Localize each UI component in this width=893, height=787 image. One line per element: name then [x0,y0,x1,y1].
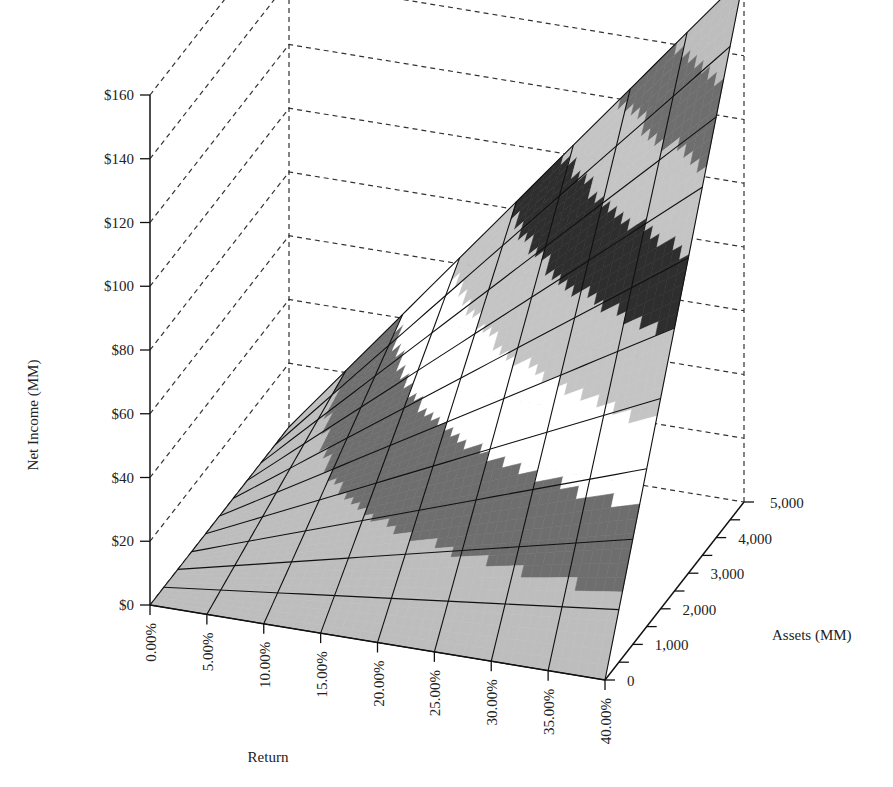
y-tick-label: 4,000 [738,531,772,547]
net-income-surface [150,0,744,680]
z-axis-title: Net Income (MM) [25,360,42,471]
z-tick-label: $120 [104,215,134,231]
z-tick-label: $80 [112,342,135,358]
y-axis-title: Assets (MM) [772,627,852,644]
z-tick-label: $0 [119,597,134,613]
x-tick-label: 25.00% [427,670,443,716]
z-tick-label: $60 [112,406,135,422]
z-axis-tick-labels: $0$20$40$60$80$100$120$140$160 [104,87,134,613]
x-tick-label: 15.00% [314,651,330,697]
y-tick-label: 3,000 [710,566,744,582]
z-tick-label: $100 [104,278,134,294]
z-tick-label: $160 [104,87,134,103]
x-tick-label: 0.00% [143,623,159,662]
x-tick-label: 35.00% [541,689,557,735]
surface-chart: $0$20$40$60$80$100$120$140$160 0.00%5.00… [0,0,893,787]
z-tick-label: $20 [112,533,135,549]
x-tick-label: 40.00% [598,698,614,744]
x-axis-title: Return [248,749,289,765]
y-tick-label: 1,000 [655,637,689,653]
x-tick-label: 5.00% [200,632,216,671]
z-tick-label: $140 [104,151,134,167]
y-tick-label: 0 [627,673,635,689]
x-tick-label: 30.00% [484,679,500,725]
x-tick-label: 10.00% [257,642,273,688]
y-tick-label: 5,000 [770,495,804,511]
y-tick-label: 2,000 [683,602,717,618]
x-tick-label: 20.00% [371,661,387,707]
assets-axis-tick-labels: 01,0002,0003,0004,0005,000 [627,495,804,689]
z-tick-label: $40 [112,470,135,486]
